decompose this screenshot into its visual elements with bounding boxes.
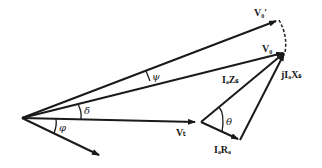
phi-label: φ xyxy=(59,122,66,133)
psi-label: ψ xyxy=(152,71,160,82)
theta-arc xyxy=(219,107,223,132)
phi-arc xyxy=(54,119,56,133)
phasor-diagram: V₀′ V₀ Vₜ IₐZₛ jIₐXₛ IₐRₐ ψ δ φ θ xyxy=(0,0,322,168)
v0-label: V₀ xyxy=(262,43,272,54)
v0-prime-vector xyxy=(22,21,276,118)
vt-vector xyxy=(22,118,195,122)
dashed-arc xyxy=(279,20,286,52)
delta-arc xyxy=(78,104,81,119)
ia-ra-label: IₐRₐ xyxy=(214,144,231,155)
ia-ra-vector xyxy=(201,122,238,139)
theta-label: θ xyxy=(226,116,232,127)
vt-label: Vₜ xyxy=(176,127,186,138)
delta-label: δ xyxy=(84,105,90,116)
v0-prime-label: V₀′ xyxy=(254,7,267,18)
psi-arc xyxy=(146,71,150,81)
j-ia-xs-label: jIₐXₛ xyxy=(280,69,302,80)
j-ia-xs-vector xyxy=(240,54,284,140)
ia-zs-label: IₐZₛ xyxy=(222,74,239,85)
